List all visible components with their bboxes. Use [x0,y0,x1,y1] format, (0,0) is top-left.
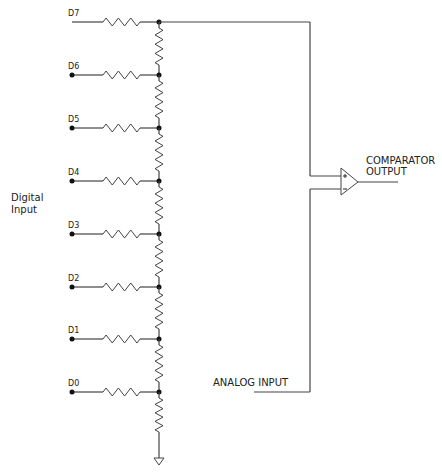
input-label-d7: D7 [68,10,79,18]
input-label-d2: D2 [68,275,79,283]
comparator-output-label: COMPARATOR OUTPUT [366,156,435,177]
input-label-d1: D1 [68,327,79,335]
input-terminal-dot [70,73,75,78]
circuit-diagram [0,0,442,473]
input-terminal-dot [70,337,75,342]
digital-input-label-line2: Input [11,205,43,215]
input-label-d4: D4 [68,169,79,177]
input-label-d6: D6 [68,63,79,71]
comparator-label-line2: OUTPUT [366,167,435,177]
resistor-d5 [103,124,140,132]
digital-input-label-line1: Digital [11,193,43,203]
input-terminal-dot [70,126,75,131]
input-label-d0: D0 [68,380,79,388]
digital-input-label: Digital Input [11,193,43,215]
ladder-resistor [155,240,163,277]
input-terminal-dot [70,390,75,395]
comparator-label-line1: COMPARATOR [366,156,435,166]
input-terminal-dot [70,285,75,290]
input-terminal-dot [70,179,75,184]
ladder-resistor [155,81,163,118]
ground-icon [154,458,164,465]
resistor-d0 [103,388,140,396]
resistor-d4 [103,177,140,185]
ladder-resistor [155,28,163,65]
ladder-resistor [155,398,163,432]
ladder-resistor [155,187,163,224]
comparator-icon [341,168,358,195]
input-terminal-dot [70,232,75,237]
input-label-d3: D3 [68,222,79,230]
input-label-d5: D5 [68,116,79,124]
resistor-d6 [103,71,140,79]
ladder-resistor [155,345,163,382]
ladder-resistor [155,293,163,329]
ladder-resistor [155,134,163,171]
resistor-d1 [103,335,140,343]
resistor-d7 [103,18,140,26]
analog-input-label: ANALOG INPUT [213,378,288,388]
resistor-d3 [103,230,140,238]
resistor-d2 [103,283,140,291]
